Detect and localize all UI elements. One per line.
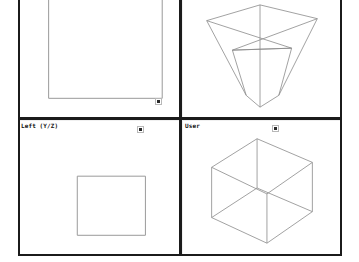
- origin-marker-icon[interactable]: [138, 127, 143, 132]
- viewport-pane-top-left[interactable]: [18, 0, 180, 118]
- frame-border-right: [340, 0, 342, 256]
- wireframe-orthographic-rectangle: [19, 121, 179, 255]
- wireframe-orthographic-rectangle-clipped: [19, 0, 179, 117]
- viewport-splitter-vertical[interactable]: [179, 0, 182, 256]
- viewport-grid: Left (Y/Z): [18, 0, 342, 256]
- viewport-splitter-horizontal[interactable]: [18, 117, 342, 120]
- origin-marker-icon[interactable]: [273, 126, 278, 131]
- viewport-label-bottom-right: User: [185, 122, 200, 130]
- frame-border-left: [18, 0, 20, 256]
- wireframe-perspective-cube: [183, 0, 341, 117]
- origin-marker-icon[interactable]: [156, 99, 161, 104]
- viewport-window: Left (Y/Z): [0, 0, 359, 262]
- viewport-pane-bottom-left[interactable]: Left (Y/Z): [18, 120, 180, 256]
- wireframe-isometric-cube: [183, 121, 341, 255]
- viewport-label-bottom-left: Left (Y/Z): [21, 122, 58, 130]
- viewport-pane-bottom-right[interactable]: User: [182, 120, 342, 256]
- viewport-pane-top-right[interactable]: [182, 0, 342, 118]
